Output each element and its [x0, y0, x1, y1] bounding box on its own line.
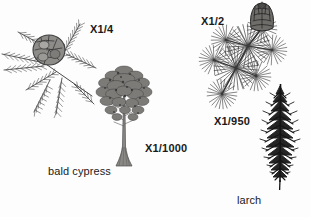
larch-branch-whorls [260, 86, 300, 180]
caption-larch: larch [237, 195, 261, 206]
bald-cypress-tree-figure [92, 62, 162, 172]
magnification-label-cypress-tree: X1/1000 [145, 143, 187, 154]
bald-cypress-tree-drawing [92, 62, 162, 172]
magnification-label-cypress-branch: X1/4 [90, 24, 113, 35]
larch-tree-drawing [258, 82, 304, 194]
caption-bald-cypress: bald cypress [48, 166, 111, 177]
larch-cone [251, 2, 274, 31]
larch-tree-figure [258, 82, 304, 194]
botanical-illustration-plate: X1/4 [0, 0, 310, 217]
bald-cypress-crown [96, 66, 152, 120]
magnification-label-larch-tree: X1/950 [214, 116, 250, 127]
magnification-label-larch-branch: X1/2 [201, 16, 224, 27]
bald-cypress-cone [33, 35, 65, 65]
